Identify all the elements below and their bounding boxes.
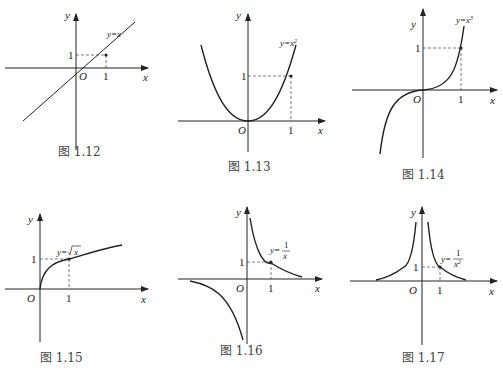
origin-label: O xyxy=(236,282,244,294)
y-label: y xyxy=(27,213,33,225)
figure-1-12: y x O 1 1 y=x xyxy=(5,9,148,150)
caption-fig-1-15: 图 1.15 xyxy=(40,348,83,365)
x-label: x xyxy=(314,282,320,294)
point-1-1 xyxy=(438,265,441,268)
x-label: x xyxy=(489,94,495,106)
caption-fig-1-12: 图 1.12 xyxy=(58,142,101,159)
caption-fig-1-13: 图 1.13 xyxy=(228,157,271,174)
fraction-numerator: 1 xyxy=(284,240,289,250)
point-1-1 xyxy=(269,260,272,263)
function-label: y=x3 xyxy=(455,15,473,25)
origin-label: O xyxy=(409,284,417,296)
tick-y-1: 1 xyxy=(413,261,419,273)
tick-x-1: 1 xyxy=(288,124,294,136)
function-label: y= xyxy=(269,245,280,255)
figure-1-15: y x O 1 1 y=x xyxy=(5,213,148,342)
fraction-denominator: x2 xyxy=(453,259,461,269)
origin-label: O xyxy=(79,70,87,82)
point-1-1 xyxy=(459,46,462,49)
tick-x-1: 1 xyxy=(66,292,72,304)
x-label: x xyxy=(140,293,146,305)
figure-1-14: y x O 1 1 y=x3 xyxy=(352,9,497,158)
curve-y-eq-sqrt-x xyxy=(40,245,122,289)
figure-1-13: y x O 1 1 y=x2 xyxy=(178,9,325,152)
y-label: y xyxy=(235,206,241,218)
tick-y-1: 1 xyxy=(68,49,74,61)
y-label: y xyxy=(410,206,416,218)
tick-y-1: 1 xyxy=(241,70,247,82)
tick-y-1: 1 xyxy=(239,256,245,268)
figures-canvas: y x O 1 1 y=x y x O 1 1 y=x2 y x O 1 1 y… xyxy=(0,0,503,374)
figure-1-16: y x O 1 1 y= 1 x xyxy=(178,206,322,344)
function-label: y=x xyxy=(106,29,121,39)
caption-fig-1-17: 图 1.17 xyxy=(402,348,445,365)
x-label: x xyxy=(142,71,148,83)
curve-y-eq-1-over-x-squared-left xyxy=(376,222,416,280)
caption-fig-1-14: 图 1.14 xyxy=(402,165,445,182)
point-1-1 xyxy=(67,257,70,260)
y-label: y xyxy=(64,9,70,21)
function-label: y=x2 xyxy=(279,38,297,48)
y-label: y xyxy=(410,18,416,30)
origin-label: O xyxy=(27,292,35,304)
tick-x-1: 1 xyxy=(458,93,464,105)
x-label: x xyxy=(488,285,494,297)
x-label: x xyxy=(317,124,323,136)
figure-1-17: y x O 1 1 y= 1 x2 xyxy=(350,206,497,345)
tick-x-1: 1 xyxy=(103,70,109,82)
tick-y-1: 1 xyxy=(415,42,421,54)
point-1-1 xyxy=(289,74,292,77)
tick-y-1: 1 xyxy=(31,253,37,265)
origin-label: O xyxy=(413,93,421,105)
fraction-denominator: x xyxy=(282,251,287,261)
function-label: y=x xyxy=(56,247,78,257)
y-label: y xyxy=(235,9,241,21)
tick-x-1: 1 xyxy=(268,282,274,294)
point-1-1 xyxy=(104,53,107,56)
function-label: y= xyxy=(440,254,451,264)
origin-label: O xyxy=(238,124,246,136)
tick-x-1: 1 xyxy=(437,284,443,296)
fraction-numerator: 1 xyxy=(456,248,461,258)
caption-fig-1-16: 图 1.16 xyxy=(220,341,263,358)
